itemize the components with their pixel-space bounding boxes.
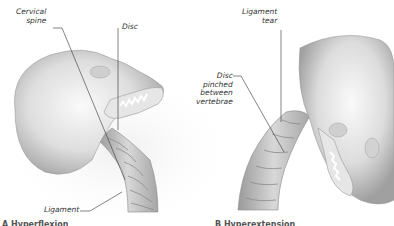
cervical-spine-right (238, 111, 310, 210)
label-ligament-tear-line2: tear (242, 17, 277, 26)
label-disc: Disc (122, 23, 138, 32)
label-disc-pinched: Disc pinched between vertebrae (196, 72, 233, 106)
label-disc-pinched-line4: vertebrae (196, 98, 233, 107)
illustration-canvas (0, 0, 394, 226)
caption-flexion: A Hyperflexion (2, 219, 68, 226)
eye-socket-left (90, 66, 110, 78)
label-ligament: Ligament (44, 206, 79, 215)
eye-socket-right (329, 123, 347, 137)
label-cervical-spine-line2: spine (16, 17, 46, 26)
whiplash-diagram: Cervical spine Disc Ligament Ligament te… (0, 0, 394, 226)
caption-extension: B Hyperextension (215, 219, 295, 226)
label-cervical-spine: Cervical spine (16, 8, 46, 25)
flexion-panel-art (0, 28, 240, 226)
skull-right (299, 36, 394, 205)
nasal-cavity-right (365, 138, 379, 158)
label-ligament-tear: Ligament tear (242, 8, 277, 25)
extension-panel-art (233, 30, 394, 210)
